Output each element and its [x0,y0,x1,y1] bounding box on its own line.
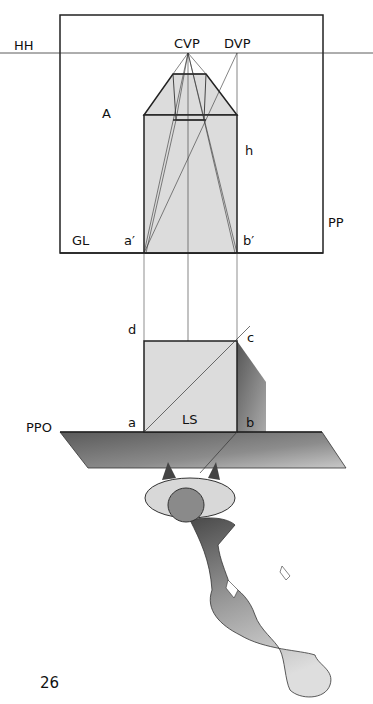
label-ppo: PPO [26,420,52,435]
label-pp: PP [328,215,344,230]
label-b-prime: b′ [243,233,254,248]
footprint-right [280,566,290,580]
perspective-diagram: HH CVP DVP A h PP GL a′ b′ d c a LS b PP… [0,0,373,704]
label-h: h [245,143,253,158]
label-gl: GL [72,233,90,248]
viewer-shadow [190,518,331,697]
tower-body [144,115,237,253]
label-a: a [128,415,136,430]
projection-lines [144,253,237,341]
page-number: 26 [40,674,59,692]
label-hh: HH [14,38,34,53]
label-d: d [128,322,136,337]
viewer-head [168,488,204,522]
label-cvp: CVP [174,36,200,51]
label-a-prime: a′ [124,233,135,248]
label-dvp: DVP [224,36,251,51]
ground-plane [60,432,346,468]
label-b: b [246,415,254,430]
label-ls: LS [182,412,198,427]
label-c: c [247,330,254,345]
label-a-upper: A [102,106,111,121]
tower-roof [144,74,237,115]
